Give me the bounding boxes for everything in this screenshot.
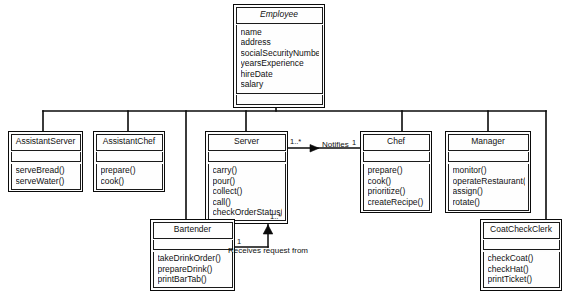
attribute-item: address [241,37,319,48]
method-item: prepareDrink() [158,264,229,275]
method-item: monitor() [453,165,525,176]
methods-compartment-assistant-chef: prepare() cook() [96,164,163,190]
method-item: takeDrinkOrder() [158,253,229,264]
class-name-employee: Employee [236,7,323,24]
method-item: carry() [213,165,282,176]
attributes-compartment-chef [363,152,430,162]
attributes-compartment-employee: name address socialSecurityNumber yearsE… [236,25,323,94]
method-item: serveBread() [16,165,77,176]
class-box-chef[interactable]: Chef prepare() cook() prioritize() creat… [360,131,432,213]
method-item: checkCoat() [488,253,556,264]
methods-compartment-manager: monitor() operateRestaurant() assign() r… [448,164,529,211]
association-label-notifies: Notifies [322,140,349,149]
class-box-employee[interactable]: Employee name address socialSecurityNumb… [233,4,325,108]
methods-compartment-bartender: takeDrinkOrder() prepareDrink() printBar… [153,252,233,289]
attribute-item: yearsExperience [241,58,319,69]
notifies-direction-arrow-icon [310,145,319,153]
method-item: operateRestaurant() [453,176,525,187]
multiplicity-server-receives: 1..* [270,213,281,221]
receives-direction-arrow-icon [263,225,273,234]
method-item: rotate() [453,197,525,208]
class-name-assistant-chef: AssistantChef [96,134,163,151]
association-label-receives-request: Receives request from [228,246,308,255]
method-item: cook() [368,176,426,187]
class-box-coat-check-clerk[interactable]: CoatCheckClerk checkCoat() checkHat() pr… [480,219,562,291]
method-item: printTicket() [488,274,556,285]
class-name-manager: Manager [448,134,529,151]
method-item: pour() [213,176,282,187]
class-name-assistant-server: AssistantServer [11,134,81,151]
class-name-server: Server [208,134,286,151]
method-item: cook() [101,176,159,187]
multiplicity-server-notifies: 1..* [290,138,301,146]
method-item: serveWater() [16,176,77,187]
attributes-compartment-coat-check-clerk [483,240,560,250]
class-name-chef: Chef [363,134,430,151]
methods-compartment-chef: prepare() cook() prioritize() createReci… [363,164,430,211]
method-item: collect() [213,186,282,197]
attributes-compartment-assistant-chef [96,152,163,162]
attributes-compartment-assistant-server [11,152,81,162]
attribute-item: hireDate [241,69,319,80]
methods-compartment-assistant-server: serveBread() serveWater() [11,164,81,190]
method-item: prepare() [368,165,426,176]
methods-compartment-coat-check-clerk: checkCoat() checkHat() printTicket() [483,252,560,289]
method-item: checkHat() [488,264,556,275]
class-name-bartender: Bartender [153,222,233,239]
class-name-coat-check-clerk: CoatCheckClerk [483,222,560,239]
multiplicity-chef-notifies: 1 [352,139,356,147]
class-box-bartender[interactable]: Bartender takeDrinkOrder() prepareDrink(… [150,219,235,291]
method-item: prepare() [101,165,159,176]
method-item: prioritize() [368,186,426,197]
attributes-compartment-bartender [153,240,233,250]
class-box-assistant-server[interactable]: AssistantServer serveBread() serveWater(… [8,131,83,192]
class-box-manager[interactable]: Manager monitor() operateRestaurant() as… [445,131,531,213]
class-box-server[interactable]: Server carry() pour() collect() call() c… [205,131,288,224]
method-item: createRecipe() [368,197,426,208]
multiplicity-bartender-receives: 1 [237,238,241,246]
attribute-item: salary [241,79,319,90]
class-box-assistant-chef[interactable]: AssistantChef prepare() cook() [93,131,165,192]
method-item: call() [213,197,282,208]
attributes-compartment-manager [448,152,529,162]
attribute-item: name [241,27,319,38]
attribute-item: socialSecurityNumber [241,48,319,59]
method-item: printBarTab() [158,274,229,285]
attributes-compartment-server [208,152,286,162]
methods-compartment-employee [236,95,323,105]
method-item: assign() [453,186,525,197]
